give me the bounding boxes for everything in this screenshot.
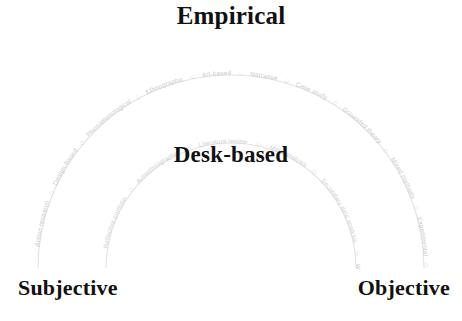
separator-icon: ◇ bbox=[238, 69, 243, 76]
inner-item-5: Web mining bbox=[0, 0, 362, 270]
outer-item-6: Case study bbox=[295, 80, 329, 102]
empirical-heading: Empirical bbox=[0, 2, 462, 30]
outer-item-0: Action research bbox=[33, 199, 51, 247]
outer-item-7-highlighted: Grounded theory bbox=[341, 105, 384, 146]
separator-icon: ◇ bbox=[331, 98, 339, 107]
inner-item-4: Secondary data analysis bbox=[320, 177, 359, 243]
separator-icon: ◇ bbox=[311, 168, 319, 177]
outer-item-2: Phenomenological bbox=[85, 97, 133, 138]
separator-icon: ◇ bbox=[126, 185, 135, 193]
outer-item-3: Ethnographic bbox=[144, 75, 185, 95]
desk-based-heading: Desk-based bbox=[0, 142, 462, 168]
inner-item-0: Reflective portfolio bbox=[102, 195, 129, 249]
outer-arc-labels: Action research ◇ Design-based ◇ Phenome… bbox=[0, 0, 430, 269]
separator-icon: ◇ bbox=[423, 263, 430, 268]
separator-icon: ◇ bbox=[284, 77, 291, 85]
outer-item-5: Narrative bbox=[250, 70, 279, 82]
outer-arc-line bbox=[38, 75, 424, 268]
separator-icon: ◇ bbox=[354, 250, 362, 256]
separator-icon: ◇ bbox=[46, 189, 54, 196]
subjective-axis-label: Subjective bbox=[18, 275, 118, 301]
separator-icon: ◇ bbox=[134, 92, 142, 101]
inner-arc-labels: Reflective portfolio ◇ Autoethnographic … bbox=[0, 0, 362, 270]
objective-axis-label: Objective bbox=[358, 275, 450, 301]
outer-item-4: Art-based bbox=[201, 69, 231, 78]
diagram-canvas: Action research ◇ Design-based ◇ Phenome… bbox=[0, 0, 462, 321]
outer-item-9: Experimental bbox=[416, 216, 429, 256]
